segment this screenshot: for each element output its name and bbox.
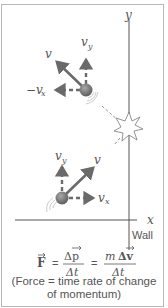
caption: (Force = time rate of change of momentum… xyxy=(0,275,168,301)
upper-ball xyxy=(80,84,93,97)
upper-ball-group: v v y −v x xyxy=(26,35,98,104)
wall-label: Wall xyxy=(132,229,153,241)
lower-ball-group: v v y v x xyxy=(47,149,110,212)
svg-text:=: = xyxy=(52,257,58,269)
lower-velocity-arrow xyxy=(66,168,93,194)
upper-vx-sub: x xyxy=(41,89,46,98)
trajectory-out xyxy=(114,138,120,145)
lower-ball xyxy=(56,192,69,205)
dp-numerator: Δp xyxy=(64,250,79,263)
caption-line-2: of momentum) xyxy=(0,288,168,301)
lower-vx-label: v xyxy=(98,191,105,205)
dv-numerator: Δv xyxy=(118,250,134,263)
upper-vy-label: v xyxy=(81,35,88,49)
upper-velocity-arrow xyxy=(57,62,84,88)
caption-line-1: (Force = time rate of change xyxy=(0,275,168,288)
upper-vy-sub: y xyxy=(87,42,93,51)
y-axis-label: y xyxy=(124,8,132,22)
wall-collision-diagram: y x v v y −v x v v y v x F = Δp xyxy=(0,0,168,308)
lower-v-label: v xyxy=(94,153,101,167)
force-symbol: F xyxy=(37,256,46,270)
lower-vy-label: v xyxy=(55,149,62,163)
lower-vx-sub: x xyxy=(105,197,110,206)
svg-text:m: m xyxy=(105,250,115,263)
svg-text:=: = xyxy=(91,257,97,269)
lower-vy-sub: y xyxy=(61,156,67,165)
upper-v-label: v xyxy=(45,47,52,61)
x-axis-label: x xyxy=(147,213,154,227)
